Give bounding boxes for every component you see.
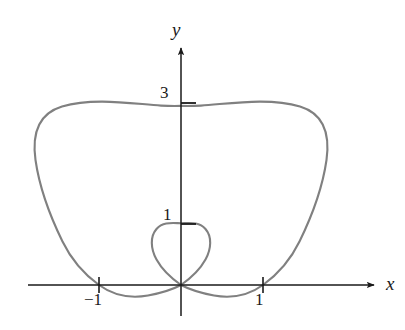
x-tick-label-1: 1: [255, 291, 264, 308]
x-axis-label: x: [386, 274, 394, 293]
plot-canvas: [0, 0, 405, 330]
y-axis-label: y: [172, 20, 180, 39]
y-tick-label-3: 3: [160, 84, 169, 101]
x-tick-label-negative-1: −1: [84, 291, 102, 308]
polar-curve-figure: x y 3 1 1 −1: [0, 0, 405, 330]
y-tick-label-1: 1: [163, 206, 172, 223]
